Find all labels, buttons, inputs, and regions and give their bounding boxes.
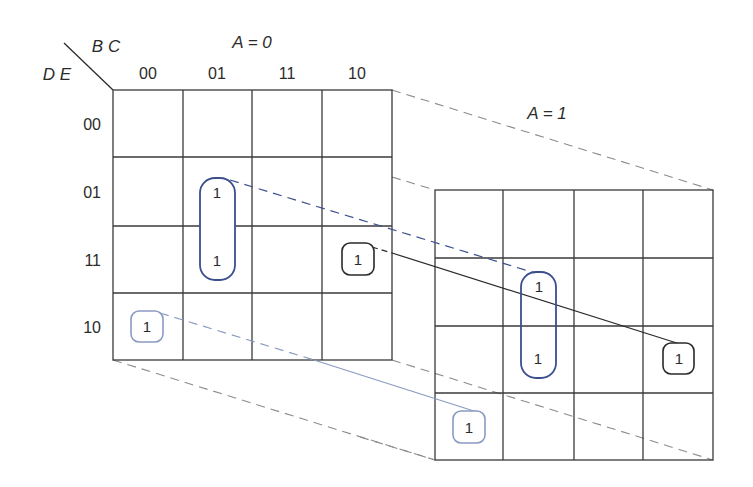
row-headers: 00 01 11 10	[83, 116, 101, 336]
cell-a1-de11-bc01: 1	[534, 350, 542, 367]
col-vars-label: B C	[92, 37, 121, 56]
projection-bottom-right	[392, 360, 713, 460]
cell-a1-de01-bc01: 1	[535, 278, 543, 295]
cell-a0-de10-bc00: 1	[143, 318, 151, 335]
row-header: 10	[83, 319, 101, 336]
projection-bottom-left	[113, 360, 435, 460]
cell-a1-de10-bc00: 1	[465, 419, 473, 436]
row-header: 01	[83, 184, 101, 201]
cell-a1-de11-bc10: 1	[675, 350, 683, 367]
projection-top-left	[392, 177, 435, 190]
col-header: 01	[208, 65, 226, 82]
map-a0-title: A = 0	[231, 33, 272, 52]
map-a1-title: A = 1	[526, 104, 567, 123]
black-connector-dashed	[372, 247, 392, 253]
col-header: 10	[348, 65, 366, 82]
cell-a0-de11-bc01: 1	[213, 252, 221, 269]
row-header: 11	[84, 252, 101, 269]
corner-label: B C D E	[43, 37, 121, 90]
col-header: 11	[279, 65, 296, 82]
cell-a0-de11-bc10: 1	[354, 251, 362, 268]
column-headers: 00 01 11 10	[139, 65, 366, 82]
karnaugh-map-diagram: B C D E A = 0 A = 1 00 01 11 10 00 01 11…	[0, 0, 753, 487]
col-header: 00	[139, 65, 157, 82]
cell-a0-de01-bc01: 1	[213, 184, 221, 201]
row-header: 00	[83, 116, 101, 133]
row-vars-label: D E	[43, 65, 72, 84]
light-group-connector	[314, 360, 477, 412]
